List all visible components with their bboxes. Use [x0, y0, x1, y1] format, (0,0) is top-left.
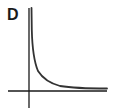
hyperbolic-curve	[32, 8, 108, 89]
inverse-curve-diagram	[0, 0, 113, 111]
